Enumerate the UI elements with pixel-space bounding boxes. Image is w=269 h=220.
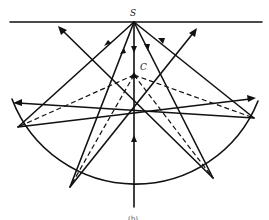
incident-ray-1	[18, 22, 134, 127]
normal-line-3	[134, 75, 213, 178]
incident-ray-4	[134, 22, 254, 118]
arrow-icon	[130, 72, 138, 78]
mirror-reflection-diagram: S C (b)	[0, 0, 269, 220]
reflected-ray-3	[62, 30, 213, 178]
arrow-icon	[247, 95, 256, 102]
arrow-icon	[144, 44, 150, 51]
source-label: S	[130, 8, 136, 18]
arrow-icon	[131, 46, 137, 53]
figure-caption: (b)	[128, 215, 138, 220]
normal-line-2	[70, 75, 134, 187]
arrow-icon	[131, 135, 137, 142]
center-label: C	[140, 62, 147, 72]
